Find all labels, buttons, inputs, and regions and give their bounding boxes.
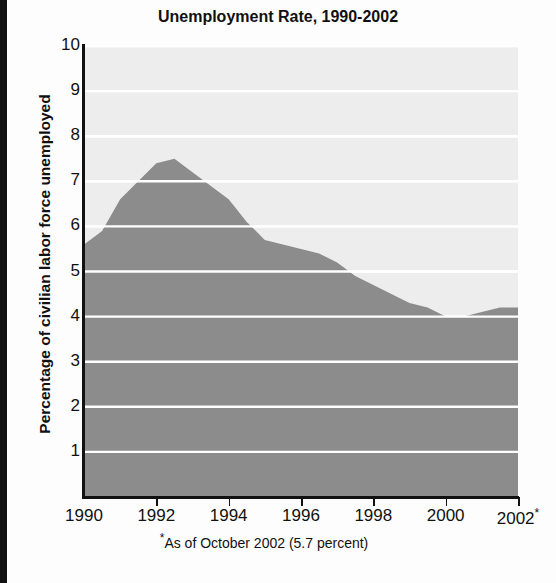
y-tick-label-1: 1 (50, 442, 80, 459)
y-axis-line (82, 44, 85, 499)
chart-figure: Unemployment Rate, 1990-2002 Percentage … (0, 0, 556, 583)
x-tick-label-1998: 1998 (338, 506, 408, 526)
x-tick-mark-2000 (446, 497, 448, 506)
x-tick-label-1994: 1994 (194, 506, 264, 526)
plot-area (84, 46, 518, 497)
unemployment-area-series (84, 159, 518, 497)
y-tick-label-6: 6 (50, 216, 80, 233)
y-tick-label-7: 7 (50, 171, 80, 188)
y-tick-label-4: 4 (50, 307, 80, 324)
x-tick-label-1996: 1996 (266, 506, 336, 526)
x-tick-mark-1994 (229, 497, 231, 506)
x-tick-label-1990: 1990 (49, 506, 119, 526)
y-tick-label-3: 3 (50, 352, 80, 369)
y-axis-tick-labels: 10987654321 (40, 0, 80, 583)
x-tick-label-1992: 1992 (121, 506, 191, 526)
x-tick-mark-2002 (518, 497, 520, 506)
x-tick-mark-1992 (156, 497, 158, 506)
x-tick-mark-1998 (373, 497, 375, 506)
area-chart-svg (84, 46, 518, 497)
y-tick-label-10: 10 (50, 36, 80, 53)
x-tick-label-2000: 2000 (411, 506, 481, 526)
y-tick-label-5: 5 (50, 262, 80, 279)
chart-title: Unemployment Rate, 1990-2002 (0, 8, 556, 26)
footnote-text: As of October 2002 (5.7 percent) (164, 535, 368, 551)
chart-footnote: *As of October 2002 (5.7 percent) (84, 531, 444, 551)
y-tick-label-8: 8 (50, 126, 80, 143)
x-tick-mark-1996 (301, 497, 303, 506)
y-tick-label-2: 2 (50, 397, 80, 414)
y-tick-label-9: 9 (50, 81, 80, 98)
scan-edge-artifact (0, 0, 7, 583)
x-tick-label-2002: 2002* (483, 506, 553, 529)
